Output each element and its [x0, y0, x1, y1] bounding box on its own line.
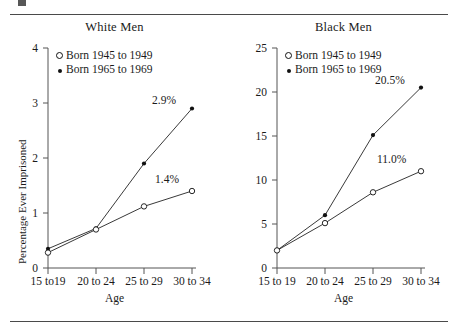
- y-tick-label: 3: [20, 97, 38, 109]
- series-line-born-1945-1949: [48, 191, 192, 253]
- data-point: [323, 213, 327, 217]
- data-point: [93, 227, 98, 232]
- data-point: [141, 204, 146, 209]
- x-axis-title: Age: [229, 292, 458, 304]
- data-point: [370, 190, 375, 195]
- figure-bottom-rule: [10, 321, 448, 322]
- legend-item: Born 1965 to 1969: [283, 62, 382, 76]
- y-tick-label: 0: [243, 262, 267, 274]
- y-axis-title: Percentage Ever Imprisoned: [16, 139, 28, 264]
- figure: White Men: [0, 0, 458, 331]
- y-tick-label: 25: [243, 42, 267, 54]
- y-tick-label: 4: [20, 42, 38, 54]
- y-tick-label: 10: [243, 174, 267, 186]
- open-circle-icon: [283, 48, 294, 62]
- data-label-20-5: 20.5%: [375, 74, 405, 86]
- x-tick-label: 30 to 34: [158, 275, 226, 287]
- data-point: [371, 133, 375, 137]
- filled-circle-icon: [54, 62, 65, 76]
- x-tick-label: 30 to 34: [387, 275, 455, 287]
- series-line-born-1945-1949: [277, 171, 421, 250]
- y-tick-label: 5: [243, 218, 267, 230]
- filled-circle-icon: [283, 62, 294, 76]
- legend-label: Born 1965 to 1969: [66, 62, 153, 76]
- legend-black-men: Born 1945 to 1949 Born 1965 to 1969: [283, 48, 382, 76]
- caption-fragment: [18, 0, 26, 6]
- data-label-1-4: 1.4%: [155, 173, 179, 185]
- y-tick-label: 20: [243, 86, 267, 98]
- panel-white-men: White Men: [0, 16, 229, 316]
- figure-top-rule: [10, 14, 448, 15]
- legend-label: Born 1965 to 1969: [295, 62, 382, 76]
- data-point: [45, 250, 50, 255]
- y-tick-label: 15: [243, 130, 267, 142]
- legend-item: Born 1965 to 1969: [54, 62, 153, 76]
- series-line-born-1965-1969: [277, 88, 421, 251]
- data-point: [142, 161, 146, 165]
- open-circle-icon: [54, 48, 65, 62]
- legend-white-men: Born 1945 to 1949 Born 1965 to 1969: [54, 48, 153, 76]
- legend-label: Born 1945 to 1949: [66, 48, 153, 62]
- data-label-2-9: 2.9%: [152, 94, 176, 106]
- data-label-11-0: 11.0%: [377, 153, 406, 165]
- data-point: [419, 86, 423, 90]
- legend-item: Born 1945 to 1949: [283, 48, 382, 62]
- data-point: [274, 248, 279, 253]
- legend-item: Born 1945 to 1949: [54, 48, 153, 62]
- x-axis-title: Age: [0, 292, 229, 304]
- data-point: [189, 188, 194, 193]
- legend-label: Born 1945 to 1949: [295, 48, 382, 62]
- data-point: [418, 169, 423, 174]
- data-point: [190, 106, 194, 110]
- panel-black-men: Black Men: [229, 16, 458, 316]
- data-point: [322, 220, 327, 225]
